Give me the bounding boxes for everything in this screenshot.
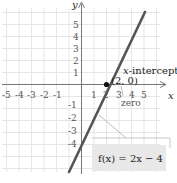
svg-text:-2: -2 bbox=[40, 90, 49, 100]
svg-text:2: 2 bbox=[73, 56, 79, 66]
svg-text:-3: -3 bbox=[68, 126, 77, 136]
zero-label: zero bbox=[121, 98, 141, 108]
svg-text:1: 1 bbox=[73, 68, 79, 78]
svg-text:-4: -4 bbox=[68, 139, 77, 149]
svg-text:-4: -4 bbox=[15, 90, 24, 100]
x-axis-label: x bbox=[168, 90, 174, 101]
svg-text:4: 4 bbox=[73, 32, 79, 42]
y-axis-label: y bbox=[71, 0, 78, 10]
svg-text:-5: -5 bbox=[2, 90, 11, 100]
svg-text:-1: -1 bbox=[68, 100, 77, 110]
svg-text:-1: -1 bbox=[53, 90, 62, 100]
svg-text:5: 5 bbox=[141, 90, 147, 100]
function-graph: x y -5 -4 -3 -2 -1 1 2 3 4 5 5 4 3 2 1 -… bbox=[0, 0, 177, 183]
function-label: f(x) = 2x − 4 bbox=[98, 153, 163, 164]
function-leader bbox=[99, 115, 126, 138]
x-intercept-point bbox=[104, 82, 109, 87]
x-intercept-coords: (2, 0) bbox=[111, 75, 138, 86]
svg-text:5: 5 bbox=[73, 20, 79, 30]
svg-text:3: 3 bbox=[73, 44, 79, 54]
svg-text:-3: -3 bbox=[27, 90, 36, 100]
svg-text:-2: -2 bbox=[68, 113, 77, 123]
svg-text:1: 1 bbox=[91, 90, 97, 100]
